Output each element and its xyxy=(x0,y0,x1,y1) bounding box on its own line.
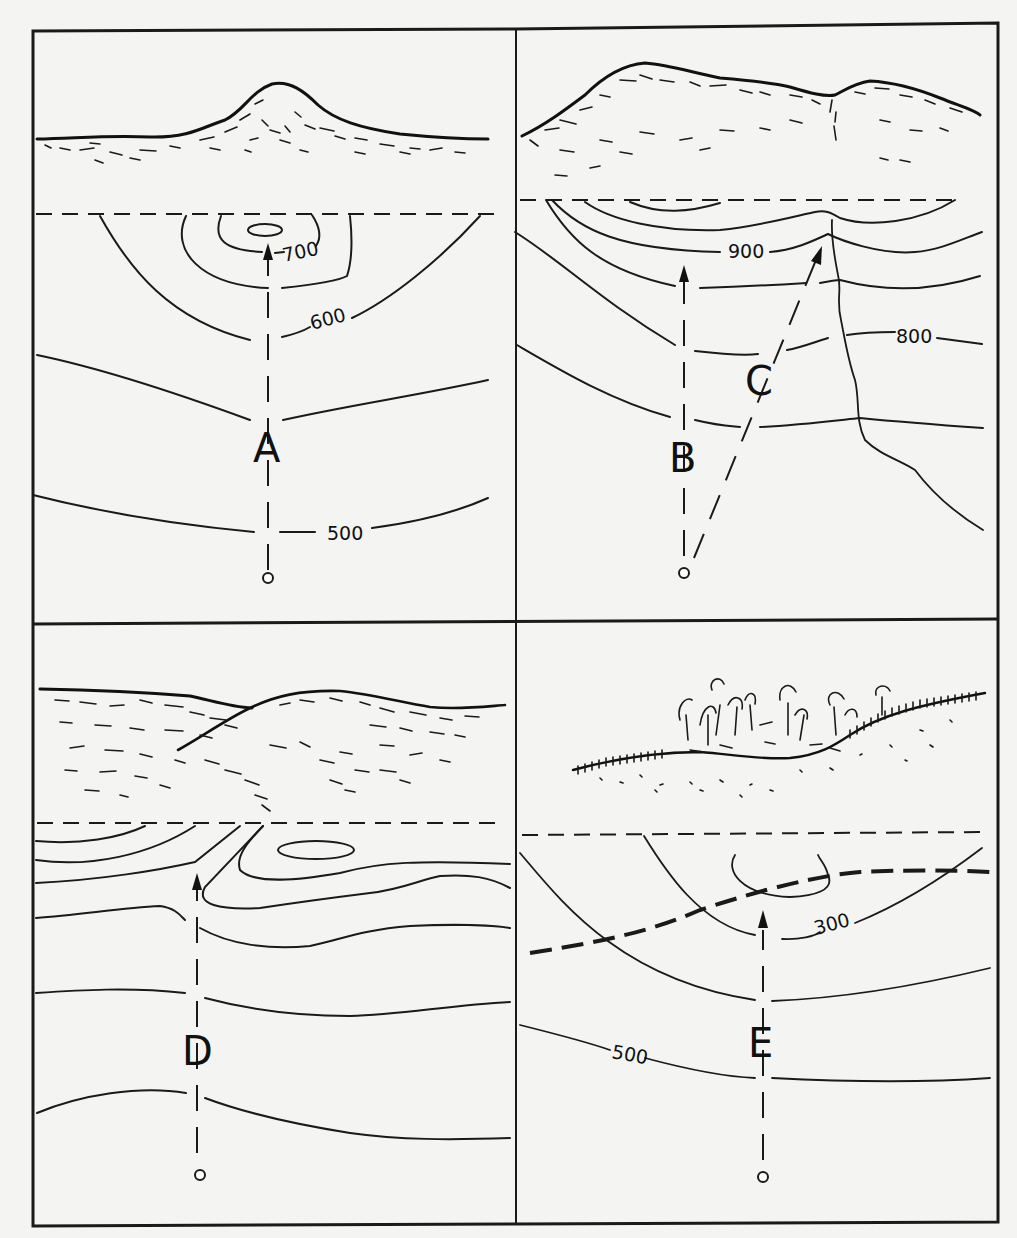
arrow-head-icon xyxy=(811,246,822,265)
start-point-bc xyxy=(679,568,689,578)
start-point-d xyxy=(195,1170,205,1180)
route-label-a: A xyxy=(253,425,281,471)
route-a: A xyxy=(253,243,281,583)
panel-bc: 900 800 B C xyxy=(515,63,983,578)
route-c: C xyxy=(694,246,822,558)
route-label-b: B xyxy=(669,435,696,481)
ridge-sketch-bc xyxy=(522,63,980,176)
contours-a: 700 600 500 xyxy=(33,215,488,544)
figure-canvas: 700 600 500 A 900 800 xyxy=(0,0,1017,1238)
arrow-head-icon xyxy=(192,873,202,890)
start-point-a xyxy=(263,573,273,583)
route-label-c: C xyxy=(745,358,773,404)
horizon-line-e xyxy=(522,832,985,835)
contour-label-700: 700 xyxy=(280,237,320,266)
trail-dashed xyxy=(530,871,990,954)
route-d: D xyxy=(182,873,213,1180)
topographic-figure: 700 600 500 A 900 800 xyxy=(0,0,1017,1238)
hill-sketch-d xyxy=(40,689,505,811)
contour-label-900: 900 xyxy=(728,240,764,262)
arrow-head-icon xyxy=(263,243,273,260)
contour-label-300: 300 xyxy=(811,908,852,939)
hill-sketch-a xyxy=(37,83,488,163)
contour-label-600: 600 xyxy=(307,303,348,334)
wooded-depression-sketch xyxy=(573,679,985,797)
route-b: B xyxy=(669,265,696,556)
panel-e: 300 500 E xyxy=(520,679,990,1182)
contour-label-800: 800 xyxy=(896,325,932,347)
route-label-e: E xyxy=(748,1020,773,1066)
panel-d: D xyxy=(36,689,510,1180)
frame xyxy=(33,23,998,1226)
arrow-head-icon xyxy=(679,265,689,282)
contour-label-500: 500 xyxy=(327,522,363,544)
contour-label-500-e: 500 xyxy=(610,1040,650,1068)
route-label-d: D xyxy=(182,1028,213,1074)
arrow-head-icon xyxy=(758,910,768,928)
contours-d xyxy=(36,826,510,1139)
route-e: E xyxy=(748,910,773,1182)
panel-a: 700 600 500 A xyxy=(33,83,496,583)
start-point-e xyxy=(758,1172,768,1182)
